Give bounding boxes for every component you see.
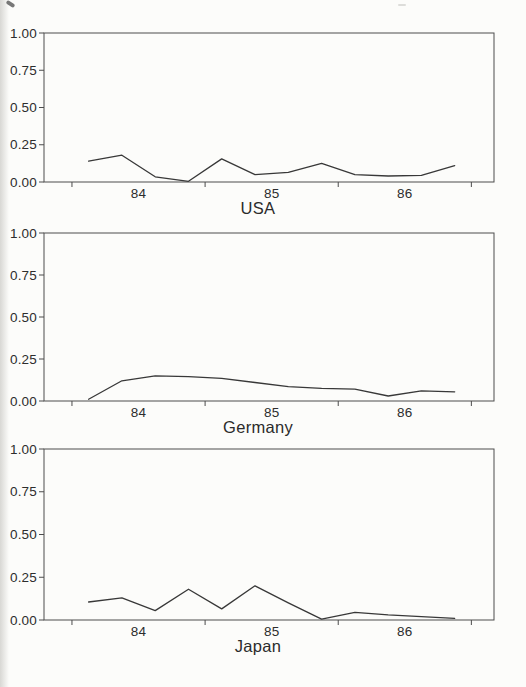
y-tick-label: 0.25: [10, 137, 37, 152]
y-tick-label: 0.75: [10, 268, 37, 283]
y-tick-label: 1.00: [10, 442, 37, 457]
x-tick-label: 86: [397, 186, 412, 201]
series-line: [89, 155, 455, 181]
x-tick-label: 84: [131, 624, 147, 639]
y-tick-label: 0.75: [10, 484, 37, 499]
plot-frame: [44, 449, 494, 620]
plot-frame: [44, 33, 494, 182]
x-tick-label: 84: [131, 186, 147, 201]
chart-title: Japan: [235, 637, 281, 655]
y-tick-label: 0.50: [10, 310, 37, 325]
chart-title: Germany: [223, 418, 293, 436]
y-tick-label: 0.75: [10, 63, 37, 78]
chart-usa: 1.000.750.500.250.00848586USA: [10, 26, 494, 218]
x-tick-label: 86: [397, 624, 412, 639]
chart-title: USA: [241, 199, 276, 217]
chart-japan: 1.000.750.500.250.00848586Japan: [10, 442, 494, 656]
plot-frame: [44, 233, 494, 401]
y-tick-label: 0.25: [10, 352, 37, 367]
y-tick-label: 0.00: [10, 613, 37, 628]
x-tick-label: 86: [397, 405, 412, 420]
scanned-figure-page: 1.000.750.500.250.00848586USA1.000.750.5…: [0, 0, 526, 687]
x-tick-label: 84: [131, 405, 147, 420]
y-tick-label: 0.25: [10, 570, 37, 585]
y-tick-label: 0.00: [10, 394, 37, 409]
series-line: [89, 376, 455, 400]
y-tick-label: 1.00: [10, 226, 37, 241]
stacked-line-charts-figure: 1.000.750.500.250.00848586USA1.000.750.5…: [0, 0, 526, 687]
series-line: [89, 586, 455, 619]
y-tick-label: 0.50: [10, 100, 37, 115]
y-tick-label: 0.50: [10, 527, 37, 542]
y-tick-label: 1.00: [10, 26, 37, 41]
chart-germany: 1.000.750.500.250.00848586Germany: [10, 226, 494, 437]
y-tick-label: 0.00: [10, 175, 37, 190]
